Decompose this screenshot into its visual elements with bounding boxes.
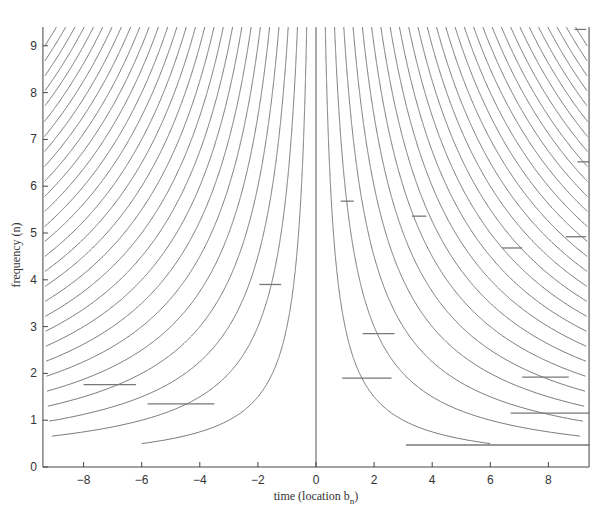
ridge-curve — [464, 27, 587, 226]
x-tick-label: 0 — [313, 473, 320, 487]
ridge-curve — [344, 27, 583, 421]
y-tick-label: 4 — [30, 273, 37, 287]
ridge-curve — [45, 27, 168, 226]
ridge-curve — [47, 27, 261, 376]
ridge-curve — [399, 27, 586, 331]
x-tick-label: −4 — [193, 473, 207, 487]
y-tick-label: 6 — [30, 179, 37, 193]
x-tick-label: −8 — [77, 473, 91, 487]
ridge-curve — [44, 27, 112, 137]
ridge-curve — [45, 27, 66, 61]
x-tick-label: 8 — [545, 473, 552, 487]
y-tick-label: 2 — [30, 366, 37, 380]
ridge-curve — [49, 27, 288, 421]
ridge-curve — [142, 27, 307, 444]
ridge-curve — [511, 27, 588, 152]
y-tick-label: 8 — [30, 86, 37, 100]
ridge-curve — [372, 27, 586, 376]
ridge-curve — [45, 27, 140, 181]
ridge-curve — [44, 27, 102, 122]
x-axis-label: time (location bn) — [274, 489, 358, 506]
error-segments — [84, 29, 589, 445]
ridge-curve — [52, 27, 298, 436]
x-tick-label: −2 — [251, 473, 265, 487]
y-tick-label: 5 — [30, 226, 37, 240]
y-tick-label: 3 — [30, 320, 37, 334]
ridge-curve — [45, 27, 205, 286]
ridge-curve — [566, 27, 587, 61]
ridge-curves — [44, 27, 587, 467]
chart: −8−6−4−2024680123456789 time (location b… — [0, 0, 613, 519]
ridge-curve — [529, 27, 587, 122]
ridge-curve — [409, 27, 587, 316]
y-tick-label: 0 — [30, 460, 37, 474]
y-tick-label: 1 — [30, 413, 37, 427]
ridge-curve — [45, 27, 57, 46]
ridge-curve — [46, 27, 233, 331]
ridge-curve — [45, 27, 223, 316]
x-tick-label: 6 — [487, 473, 494, 487]
ridge-curve — [325, 27, 490, 444]
ridge-curve — [474, 27, 588, 211]
ridge-curve — [437, 27, 588, 271]
y-axis-label: frequency (n) — [9, 223, 23, 288]
ridge-curve — [520, 27, 588, 137]
ridge-curve — [45, 27, 159, 211]
ridge-curve — [335, 27, 581, 436]
x-tick-label: 4 — [429, 473, 436, 487]
y-tick-label: 9 — [30, 39, 37, 53]
ridge-curve — [45, 27, 196, 271]
x-tick-label: −6 — [135, 473, 149, 487]
ridge-curve — [48, 27, 279, 406]
x-tick-label: 2 — [371, 473, 378, 487]
ridge-curve — [353, 27, 584, 406]
y-tick-label: 7 — [30, 132, 37, 146]
ridge-curve — [492, 27, 587, 181]
ridge-curve — [45, 27, 122, 152]
